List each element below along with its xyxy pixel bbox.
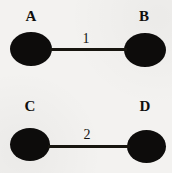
- node-label-a: A: [23, 9, 39, 24]
- node-circle-a: [10, 32, 52, 66]
- edge-a-b: [50, 48, 127, 51]
- node-circle-c: [10, 128, 50, 161]
- diagram-canvas: A B 1 C D 2: [0, 0, 172, 173]
- node-label-c: C: [22, 99, 38, 114]
- edge-c-d: [48, 145, 130, 148]
- node-label-b: B: [136, 9, 152, 24]
- node-circle-b: [124, 33, 166, 67]
- edge-label-1: 1: [79, 32, 93, 46]
- edge-label-2: 2: [80, 128, 94, 142]
- node-circle-d: [127, 130, 166, 163]
- node-label-d: D: [137, 99, 153, 114]
